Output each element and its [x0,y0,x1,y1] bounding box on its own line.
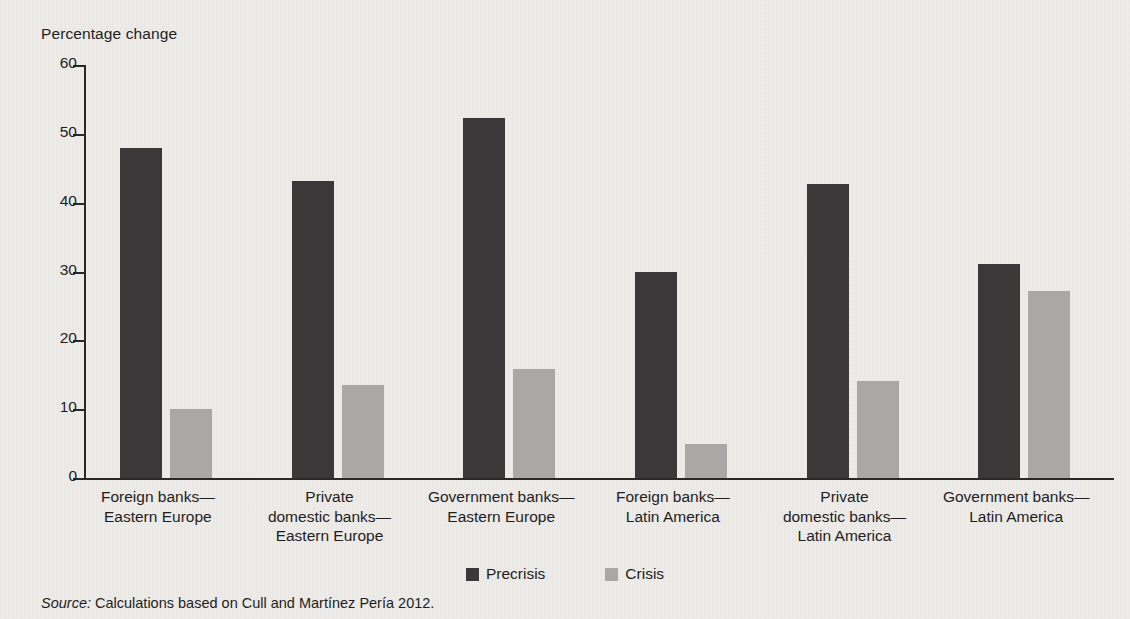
category-label-line: Eastern Europe [72,507,244,527]
bar-crisis-4 [685,444,727,478]
category-label-2: Privatedomestic banks—Eastern Europe [244,487,416,546]
bar-crisis-3 [513,369,555,478]
category-label-4: Foreign banks—Latin America [587,487,759,526]
legend-label: Precrisis [486,565,545,583]
plot-area: 6050403020100 [84,65,1114,480]
y-tick-label: 50 [60,123,77,141]
category-label-line: Foreign banks— [587,487,759,507]
bar-crisis-2 [342,385,384,478]
y-tick-label: 40 [60,192,77,210]
category-label-line: Latin America [930,507,1102,527]
y-tick-label: 10 [60,398,77,416]
category-label-line: Eastern Europe [415,507,587,527]
legend-swatch-icon [466,568,479,581]
x-axis-line [84,478,1114,480]
y-tick-label: 20 [60,329,77,347]
category-label-line: Government banks— [930,487,1102,507]
bar-crisis-1 [170,409,212,478]
bar-precrisis-2 [292,181,334,478]
category-label-5: Privatedomestic banks—Latin America [759,487,931,546]
chart-page: Percentage change 6050403020100 Foreign … [0,0,1130,619]
category-label-line: Latin America [759,526,931,546]
bar-precrisis-6 [978,264,1020,478]
category-label-line: Latin America [587,507,759,527]
bar-crisis-5 [857,381,899,478]
bar-precrisis-3 [463,118,505,478]
legend-swatch-icon [605,568,618,581]
bar-crisis-6 [1028,291,1070,478]
bar-precrisis-4 [635,272,677,479]
y-tick-label: 30 [60,261,77,279]
legend-item-precrisis[interactable]: Precrisis [466,565,545,583]
category-label-6: Government banks—Latin America [930,487,1102,526]
category-label-line: Private [244,487,416,507]
chart-legend: PrecrisisCrisis [0,565,1130,583]
category-label-3: Government banks—Eastern Europe [415,487,587,526]
legend-label: Crisis [625,565,664,583]
y-axis-title: Percentage change [41,25,177,43]
category-label-line: Foreign banks— [72,487,244,507]
y-tick-label: 60 [60,54,77,72]
y-tick-label: 0 [68,467,77,485]
category-label-line: Government banks— [415,487,587,507]
bar-precrisis-1 [120,148,162,478]
source-text: Calculations based on Cull and Martínez … [91,595,434,611]
category-label-line: Private [759,487,931,507]
legend-item-crisis[interactable]: Crisis [605,565,664,583]
bar-precrisis-5 [807,184,849,478]
category-label-1: Foreign banks—Eastern Europe [72,487,244,526]
x-axis-category-labels: Foreign banks—Eastern EuropePrivatedomes… [84,487,1114,557]
category-label-line: Eastern Europe [244,526,416,546]
category-label-line: domestic banks— [244,507,416,527]
source-note: Source: Calculations based on Cull and M… [41,595,434,611]
source-label: Source: [41,595,91,611]
y-axis-line [84,65,86,480]
category-label-line: domestic banks— [759,507,931,527]
